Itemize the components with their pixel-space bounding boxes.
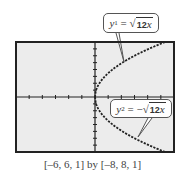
- y1-eq: =: [118, 17, 130, 29]
- y2-radicand-var: x: [160, 103, 165, 115]
- y2-eq: =: [125, 103, 137, 115]
- y1-label-callout: y1 = √12x: [103, 13, 159, 33]
- y1-radicand-num: 12: [137, 20, 147, 30]
- window-caption: [–6, 6, 1] by [–8, 8, 1]: [0, 158, 185, 170]
- y1-radicand-var: x: [147, 18, 152, 30]
- y2-label-callout: y2 = −√12x: [110, 99, 172, 118]
- y2-radicand-num: 12: [150, 105, 160, 115]
